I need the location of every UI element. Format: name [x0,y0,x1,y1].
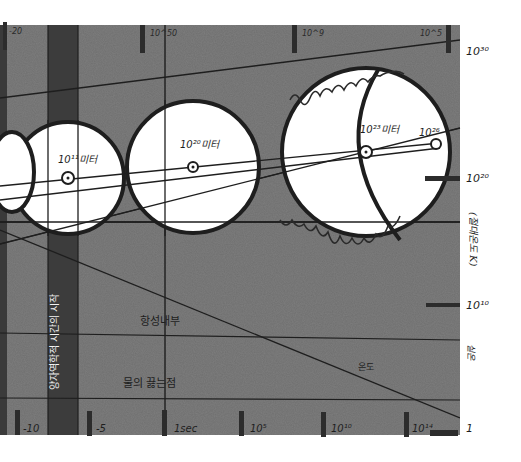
circle-label-10e11: 10¹¹미터 [58,154,99,165]
bottom-tick-label: -5 [96,423,106,434]
bottom-tick-label: -10 [23,423,39,434]
bottom-tick-label: 10¹⁰ [331,423,352,434]
circle-label-10e26: 10²⁶ [419,127,440,138]
boiling-point-label: 물의 끓는점 [123,377,177,390]
temperature-curve-label: 온도 [358,362,374,372]
diagram-canvas: 10¹¹미터 10²⁰미터 10²³미터 10²⁶ [0,0,521,462]
quantum-band-label: 양자역학적 시간의 시작 [49,294,60,390]
diagram-svg: 10¹¹미터 10²⁰미터 10²³미터 10²⁶ [0,0,521,462]
circle-label-10e20: 10²⁰미터 [180,139,221,150]
center-marker-10e26 [431,139,441,149]
circle-label-10e23: 10²³미터 [360,124,401,135]
bottom-tick-label: 10¹⁴ [412,423,433,434]
stellar-interior-label: 항성내부 [140,315,180,328]
right-axis-title: (절대온도 K) [468,212,479,267]
room-temperature-label: 실온 [466,344,476,361]
right-tick-10e20: 10²⁰ [466,172,489,185]
right-tick-10e30: 10³⁰ [466,45,489,58]
top-tick-label: 10^5 [420,29,442,38]
bottom-tick-label: 10⁵ [250,423,267,434]
right-tick-1: 1 [466,422,473,435]
top-tick-label: 10^9 [302,29,324,38]
bottom-tick-label: 1sec [174,423,198,434]
top-tick-label: 10^50 [150,29,177,38]
top-tick-label: -20 [9,27,22,36]
right-tick-10e10: 10¹⁰ [466,299,489,312]
